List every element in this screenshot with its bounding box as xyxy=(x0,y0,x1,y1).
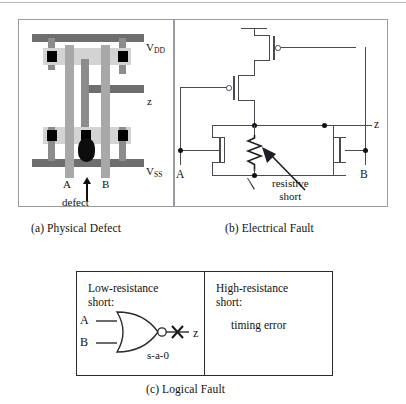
pmos1-channel-wire xyxy=(269,35,270,61)
low-resistance-heading-line2: short: xyxy=(88,295,158,309)
pmos1-drain-stub xyxy=(254,60,255,75)
annotation-line-1: resistive xyxy=(272,177,309,190)
nor-input-label-a: A xyxy=(80,313,89,328)
nor-output-label-z: z xyxy=(193,326,198,341)
pmos2-channel-wire xyxy=(238,75,239,101)
nor-input-label-b: B xyxy=(80,335,88,350)
label-defect: defect xyxy=(62,196,89,208)
label-input-a: A xyxy=(63,178,71,190)
nmosA-gate-wire xyxy=(180,150,220,151)
high-resistance-heading-line1: High-resistance xyxy=(216,281,288,295)
poly-gate-a xyxy=(65,45,74,167)
caption-c: (c) Logical Fault xyxy=(146,383,225,395)
nmosA-channel-wire xyxy=(224,137,225,163)
pmos1-bottom-arm xyxy=(254,60,270,61)
defect-arrow-head xyxy=(83,177,91,184)
pmos1-gate-wire xyxy=(281,47,356,48)
output-z-wire xyxy=(212,125,372,126)
low-resistance-heading-line1: Low-resistance xyxy=(88,281,158,295)
defect-blob xyxy=(78,138,95,162)
pmos1-top-arm xyxy=(254,35,270,36)
low-resistance-heading: Low-resistance short: xyxy=(88,281,158,309)
nmosA-bottom-arm xyxy=(212,162,225,163)
resistive-short-annotation: resistive short xyxy=(272,177,309,203)
pmos1-gate-bubble-icon xyxy=(275,45,281,51)
schematic-label-a: A xyxy=(176,168,184,180)
input-a-vertical xyxy=(180,87,181,165)
poly-gate-b xyxy=(101,45,110,167)
nmosB-channel-wire xyxy=(333,137,334,163)
node-dot-b xyxy=(363,148,368,153)
timing-error-text: timing error xyxy=(231,318,286,332)
poly-stub-a xyxy=(65,167,74,178)
nmosA-right-bracket xyxy=(212,162,213,175)
contact-ndiff-right xyxy=(118,130,128,141)
annotation-line-2: short xyxy=(272,190,309,203)
electrical-fault-schematic: A B z resistive short xyxy=(174,19,388,207)
schematic-label-z: z xyxy=(374,118,379,130)
high-resistance-heading-line2: short: xyxy=(216,295,288,309)
caption-a: (a) Physical Defect xyxy=(31,222,121,234)
label-z: z xyxy=(147,95,152,107)
pmos2-gate-plate xyxy=(233,76,235,100)
nmosB-bottom-arm xyxy=(333,162,346,163)
pmos2-drain-stub xyxy=(254,100,255,125)
pmos2-gate-wire xyxy=(180,87,227,88)
schematic-label-b: B xyxy=(360,168,368,180)
physical-layout-art: VDD z VSS A B defect xyxy=(18,19,174,207)
pdiff-to-z-link xyxy=(81,59,89,87)
high-resistance-heading: High-resistance short: xyxy=(216,281,288,309)
nmosB-gate-plate xyxy=(339,138,341,162)
nmosB-right-bracket xyxy=(333,162,334,175)
output-z-rail xyxy=(81,85,144,93)
caption-b: (b) Electrical Fault xyxy=(225,222,314,234)
node-dot-z-right xyxy=(322,123,327,128)
pmos2-bottom-arm xyxy=(238,100,255,101)
stuck-at-zero-label: s-a-0 xyxy=(147,349,169,361)
contact-pdiff-right xyxy=(118,51,128,62)
pmos2-top-arm xyxy=(238,75,255,76)
poly-stub-b xyxy=(101,167,110,178)
node-dot-a xyxy=(178,148,183,153)
label-vdd: VDD xyxy=(146,41,165,53)
contact-pdiff-left xyxy=(47,51,57,62)
pmos1-source-stub xyxy=(254,28,255,35)
label-input-b: B xyxy=(102,178,109,190)
top-rule xyxy=(0,2,406,3)
contact-ndiff-left xyxy=(47,130,57,141)
label-vss: VSS xyxy=(146,165,162,177)
figure-defect-abstraction: VDD z VSS A B defect xyxy=(0,0,406,404)
